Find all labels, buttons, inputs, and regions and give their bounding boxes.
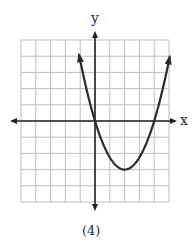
x-axis-label: x	[180, 112, 188, 128]
parabola-graph	[0, 0, 195, 244]
figure-caption: (4)	[82, 223, 100, 238]
axes	[10, 31, 177, 211]
y-axis-label: y	[91, 10, 99, 26]
